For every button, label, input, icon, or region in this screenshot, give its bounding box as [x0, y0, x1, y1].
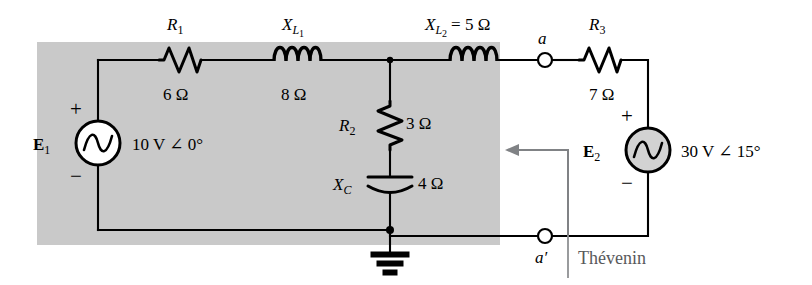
label-e2-minus: −: [621, 171, 633, 195]
thevenin-pointer-line: [516, 150, 568, 237]
label-xc-name: X: [332, 175, 344, 194]
label-r1: R1: [166, 15, 183, 37]
label-r2-name: R: [338, 116, 350, 135]
ground-bar-2: [377, 261, 403, 266]
label-xl1-subsubscript: 1: [299, 28, 304, 39]
label-r2-value: 3 Ω: [406, 114, 431, 133]
label-terminal-a: a: [538, 29, 547, 48]
label-r2-subscript: 2: [349, 124, 355, 138]
label-terminal-aprime: a′: [535, 248, 548, 267]
label-e1-subscript: 1: [44, 143, 50, 157]
label-e2-plus: +: [621, 104, 633, 128]
label-r3-name: R: [588, 15, 600, 34]
label-e2: E2: [583, 142, 600, 164]
label-e2-subscript: 2: [594, 150, 600, 164]
label-thevenin: Thévenin: [578, 248, 646, 268]
label-r3: R3: [588, 15, 605, 37]
ground-bar-3: [383, 270, 397, 275]
label-e1-name: E: [33, 135, 44, 154]
label-xl2-equals: = 5 Ω: [451, 15, 490, 34]
circuit-diagram-figure: R1 6 Ω XL1 8 Ω XL2= 5 Ω R2 3 Ω XC 4 Ω R3…: [0, 0, 812, 285]
terminal-aprime-node: [538, 229, 552, 243]
label-xc-value: 4 Ω: [418, 174, 443, 193]
label-xc-subscript: C: [343, 183, 352, 197]
wire-aprime-to-e2-bottom: [552, 172, 648, 236]
ground-bar-1: [371, 252, 409, 257]
label-xl1: XL1: [281, 15, 304, 39]
resistor-r3-symbol: [579, 48, 621, 72]
label-xl2-subsubscript: 2: [442, 28, 447, 39]
label-xl1-value: 8 Ω: [281, 85, 306, 104]
label-r3-subscript: 3: [599, 23, 605, 37]
label-r1-name: R: [166, 15, 178, 34]
label-r3-value: 7 Ω: [589, 85, 614, 104]
label-e1-plus: +: [70, 97, 82, 121]
thevenin-pointer-arrowhead: [505, 144, 519, 156]
label-xl2: XL2= 5 Ω: [424, 15, 490, 39]
circuit-schematic: R1 6 Ω XL1 8 Ω XL2= 5 Ω R2 3 Ω XC 4 Ω R3…: [0, 0, 812, 285]
label-e1-value: 10 V ∠ 0°: [132, 135, 203, 154]
label-e2-value: 30 V ∠ 15°: [681, 142, 760, 161]
label-e1-minus: −: [70, 164, 82, 188]
junction-dot-top: [387, 57, 393, 63]
label-e2-name: E: [583, 142, 594, 161]
terminal-a-node: [538, 53, 552, 67]
label-r1-value: 6 Ω: [163, 85, 188, 104]
label-r1-subscript: 1: [177, 23, 183, 37]
label-xl1-name: X: [281, 15, 293, 34]
label-xl2-name: X: [424, 15, 436, 34]
